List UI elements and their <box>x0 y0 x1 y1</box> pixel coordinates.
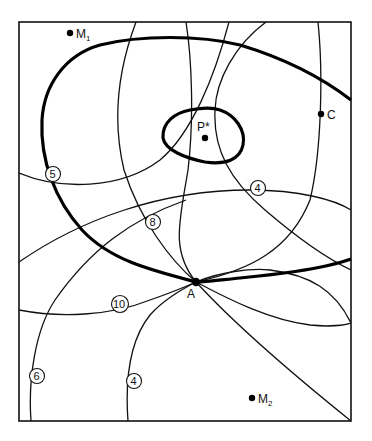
point-m2 <box>249 395 255 401</box>
contour-right-vertical <box>196 22 321 282</box>
svg-text:6: 6 <box>34 370 40 382</box>
svg-text:10: 10 <box>113 298 125 310</box>
contour-5 <box>19 10 232 184</box>
contour-label-8: 8 <box>146 215 161 230</box>
contour-4-lower <box>127 282 196 421</box>
contour-label-4-lower: 4 <box>127 374 142 389</box>
svg-text:4: 4 <box>131 375 137 387</box>
frame-border <box>19 22 351 421</box>
label-p-star: P* <box>197 120 210 134</box>
svg-text:8: 8 <box>150 216 156 228</box>
contour-label-5: 5 <box>46 167 61 182</box>
contour-lens-right-upper <box>196 270 351 324</box>
label-c: C <box>327 108 336 122</box>
contour-left-arc <box>118 22 196 282</box>
svg-text:5: 5 <box>50 168 56 180</box>
svg-text:4: 4 <box>255 182 261 194</box>
point-a <box>192 278 200 286</box>
contour-label-4-upper: 4 <box>251 181 266 196</box>
point-p-star <box>202 135 208 141</box>
label-m1: M1 <box>76 27 91 43</box>
label-m2: M2 <box>258 392 273 408</box>
contour-label-6: 6 <box>30 369 45 384</box>
contour-6 <box>30 200 186 421</box>
contour-label-10: 10 <box>112 296 129 313</box>
point-m1 <box>67 30 73 36</box>
point-c <box>318 111 324 117</box>
contour-lens-right-lower <box>196 282 351 326</box>
diagram-canvas: M1 C P* A M2 5 4 8 10 6 4 <box>0 0 372 441</box>
label-a: A <box>187 287 195 301</box>
